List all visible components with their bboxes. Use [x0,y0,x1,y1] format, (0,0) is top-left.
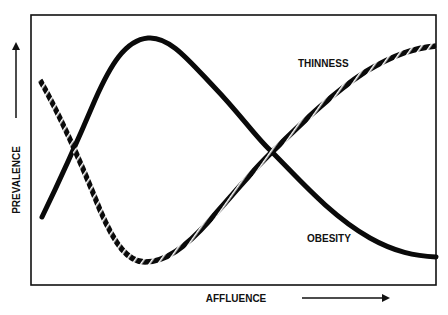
chart: THINNESS OBESITY PREVALENCE AFFLUENCE [0,0,448,315]
obesity-label: OBESITY [307,233,351,244]
thinness-label: THINNESS [298,58,349,69]
thinness-curve [40,46,436,262]
x-axis-label: AFFLUENCE [206,293,267,304]
plot-frame [31,15,436,285]
obesity-curve [42,38,436,257]
y-axis-label: PREVALENCE [11,146,22,214]
